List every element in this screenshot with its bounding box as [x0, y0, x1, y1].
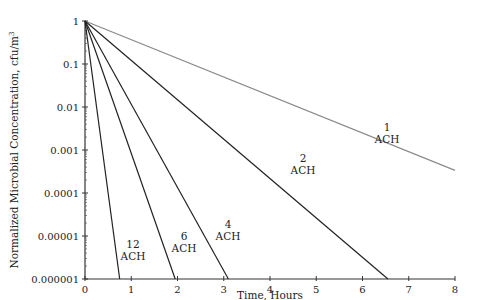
series-line: [85, 21, 455, 170]
series-label: ACH: [171, 242, 197, 254]
x-tick-label: 6: [359, 284, 365, 295]
series-line: [85, 21, 228, 279]
series-label: ACH: [374, 133, 400, 145]
y-tick-label: 1: [73, 16, 79, 27]
series-label: ACH: [215, 230, 241, 242]
y-tick-label: 0.01: [57, 102, 79, 113]
y-tick-label: 0.001: [50, 145, 79, 156]
y-tick-label: 0.00001: [38, 231, 79, 242]
series-label: 12: [126, 238, 139, 250]
series-label: ACH: [290, 164, 316, 176]
series-label: 4: [225, 218, 232, 230]
y-ticks: 10.10.010.0010.00010.000010.000001: [31, 16, 88, 285]
series-line: [85, 21, 120, 279]
x-tick-label: 3: [221, 284, 227, 295]
x-tick-label: 2: [174, 284, 180, 295]
x-tick-label: 5: [313, 284, 319, 295]
y-tick-label: 0.000001: [31, 274, 79, 285]
y-tick-label: 0.0001: [44, 188, 79, 199]
x-axis-title: Time, Hours: [237, 289, 303, 300]
x-tick-label: 8: [452, 284, 458, 295]
series-label: 6: [181, 230, 188, 242]
series-lines: [85, 21, 455, 279]
y-tick-label: 0.1: [63, 59, 79, 70]
y-axis-title: Normalized Microbial Concentration, cfu/…: [8, 32, 20, 269]
x-tick-label: 7: [406, 284, 412, 295]
x-tick-label: 1: [128, 284, 134, 295]
series-label: ACH: [120, 250, 146, 262]
series-label: 2: [300, 152, 307, 164]
x-tick-label: 0: [82, 284, 88, 295]
decay-chart: 10.10.010.0010.00010.000010.000001 01234…: [0, 0, 479, 300]
series-label: 1: [384, 121, 391, 133]
